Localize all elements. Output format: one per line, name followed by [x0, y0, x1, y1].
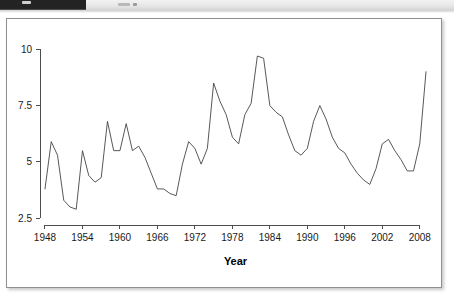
x-axis-tick-label: 1996 — [334, 232, 357, 243]
toolbar-tick-icon — [118, 3, 130, 6]
x-axis-tick-label: 1966 — [146, 232, 169, 243]
x-axis-tick-label: 1972 — [184, 232, 207, 243]
x-axis-tick-label: 1954 — [71, 232, 94, 243]
x-axis-tick-label: 1960 — [109, 232, 132, 243]
chart-plot-area: 2.557.510 194819541960196619721978198419… — [7, 19, 443, 289]
y-axis-tick-group: 2.557.510 — [18, 44, 40, 224]
x-axis-tick-label: 1990 — [296, 232, 319, 243]
app-badge-icon[interactable] — [0, 0, 86, 10]
x-axis-tick-label: 1984 — [259, 232, 282, 243]
y-axis-tick-label: 2.5 — [18, 213, 32, 224]
badge-highlight-icon — [22, 1, 31, 4]
toolbar-shadow — [0, 11, 454, 13]
unemployment-line-chart: 2.557.510 194819541960196619721978198419… — [7, 19, 443, 289]
top-toolbar-strip — [0, 0, 454, 11]
x-axis-tick-label: 1978 — [221, 232, 244, 243]
x-axis-tick-label: 2002 — [371, 232, 394, 243]
toolbar-tick-icon — [133, 3, 137, 6]
y-axis-tick-label: 5 — [26, 156, 32, 167]
x-axis-title: Year — [224, 255, 248, 267]
x-axis-tick-label: 1948 — [34, 232, 57, 243]
x-axis-tick-group: 1948195419601966197219781984199019962002… — [34, 225, 431, 243]
unemployment-series-line — [45, 56, 426, 209]
y-axis-tick-label: 7.5 — [18, 100, 32, 111]
y-axis-tick-label: 10 — [21, 44, 33, 55]
figure-container: 2.557.510 194819541960196619721978198419… — [6, 18, 442, 288]
x-axis-tick-label: 2008 — [409, 232, 432, 243]
